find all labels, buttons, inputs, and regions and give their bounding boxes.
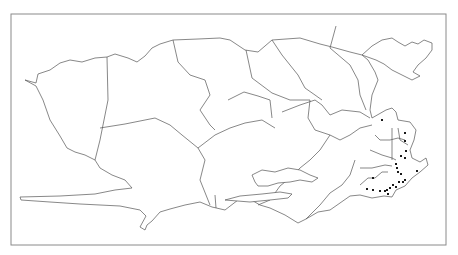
map-point-marker — [416, 170, 418, 172]
map-point-marker — [400, 155, 402, 157]
map-point-marker — [381, 119, 383, 121]
map-point-marker — [395, 186, 397, 188]
map-container — [0, 0, 458, 255]
map-point-marker — [395, 163, 397, 165]
map-point-marker — [372, 177, 374, 179]
map-point-marker — [384, 190, 386, 192]
map-point-marker — [392, 184, 394, 186]
map-point-marker — [404, 179, 406, 181]
map-point-marker — [387, 193, 389, 195]
map-point-marker — [404, 157, 406, 159]
map-point-marker — [389, 187, 391, 189]
map-point-marker — [397, 171, 399, 173]
map-point-marker — [404, 132, 406, 134]
map-point-marker — [398, 181, 400, 183]
map-point-marker — [400, 173, 402, 175]
map-point-marker — [379, 190, 381, 192]
map-point-marker — [405, 150, 407, 152]
map-point-marker — [404, 140, 406, 142]
map-point-marker — [372, 189, 374, 191]
region-map — [0, 0, 458, 255]
map-point-marker — [402, 181, 404, 183]
map-point-marker — [366, 188, 368, 190]
map-point-marker — [386, 189, 388, 191]
map-point-marker — [396, 167, 398, 169]
